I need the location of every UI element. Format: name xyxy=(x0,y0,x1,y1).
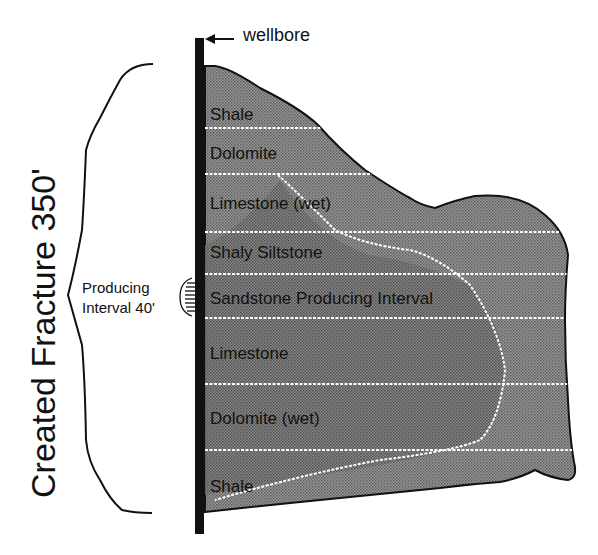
producing-interval-line1: Producing xyxy=(82,279,150,296)
created-fracture-title: Created Fracture 350' xyxy=(24,168,62,498)
layer-label-shale-top: Shale xyxy=(210,105,253,124)
layer-label-dolomite: Dolomite xyxy=(210,144,277,163)
layer-label-limestone-wet: Limestone (wet) xyxy=(210,194,331,213)
wellbore xyxy=(195,38,204,534)
layer-label-shaly-siltstone: Shaly Siltstone xyxy=(210,243,322,262)
fracture-diagram: Shale Dolomite Limestone (wet) Shaly Sil… xyxy=(0,0,598,555)
layer-label-shale-bottom: Shale xyxy=(210,477,253,496)
perforation-marks xyxy=(180,278,195,316)
layer-label-limestone: Limestone xyxy=(210,344,288,363)
wellbore-pointer: wellbore xyxy=(205,25,310,45)
layer-label-sandstone-producing: Sandstone Producing Interval xyxy=(210,289,433,308)
wellbore-label: wellbore xyxy=(242,25,310,45)
arrow-left-icon xyxy=(205,34,215,44)
producing-interval-line2: Interval 40' xyxy=(82,299,155,316)
layer-label-dolomite-wet: Dolomite (wet) xyxy=(210,409,320,428)
